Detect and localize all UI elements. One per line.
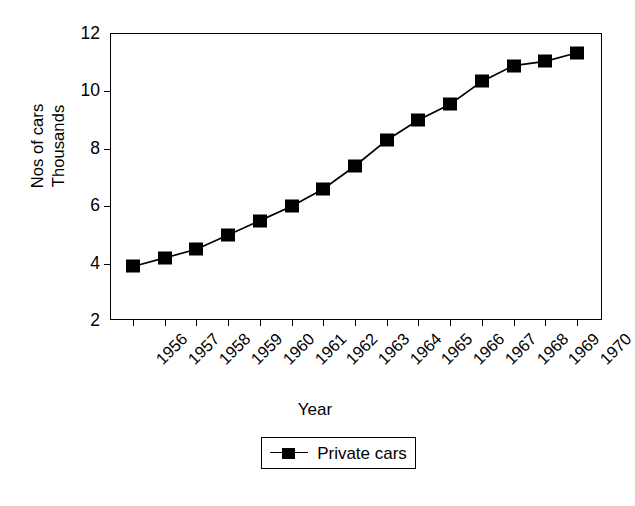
x-axis-tick: [133, 319, 134, 326]
x-axis-tick: [196, 319, 197, 326]
x-axis-tick-label: 1956: [153, 330, 191, 368]
x-axis-tick: [260, 319, 261, 326]
x-axis-tick-label: 1960: [280, 330, 318, 368]
y-axis-tick-label: 4: [60, 254, 100, 272]
x-axis-tick-label: 1964: [406, 330, 444, 368]
legend-entry-label: Private cars: [317, 445, 407, 462]
x-axis-tick-label: 1959: [248, 330, 286, 368]
data-point-marker: [507, 59, 521, 72]
y-axis-title-line-1: Nos of cars: [27, 104, 47, 189]
x-axis-tick-label: 1957: [184, 330, 222, 368]
plot-area: [110, 33, 602, 320]
legend-square-icon: [282, 448, 295, 459]
series-line-private-cars: [111, 34, 603, 321]
x-axis-tick: [577, 319, 578, 326]
x-axis-title: Year: [0, 400, 630, 420]
data-point-marker: [443, 98, 457, 111]
data-point-marker: [126, 260, 140, 273]
x-axis-tick-label: 1963: [375, 330, 413, 368]
y-axis-tick: [104, 264, 111, 265]
x-axis-tick-label: 1961: [311, 330, 349, 368]
legend-marker-icon: [270, 446, 308, 460]
y-axis-tick: [104, 149, 111, 150]
data-point-marker: [380, 134, 394, 147]
data-point-marker: [316, 182, 330, 195]
x-axis-tick-label: 1968: [533, 330, 571, 368]
data-point-marker: [285, 200, 299, 213]
x-axis-tick-label: 1965: [438, 330, 476, 368]
x-axis-tick-label: 1970: [597, 330, 635, 368]
x-axis-tick: [323, 319, 324, 326]
x-axis-tick-label: 1969: [565, 330, 603, 368]
data-point-marker: [221, 228, 235, 241]
x-axis-tick: [228, 319, 229, 326]
y-axis-tick-label: 2: [60, 311, 100, 329]
x-axis-tick: [355, 319, 356, 326]
x-axis-tick-label: 1966: [470, 330, 508, 368]
chart-legend: Private cars: [261, 437, 416, 469]
y-axis-tick-label: 12: [60, 24, 100, 42]
data-point-marker: [570, 46, 584, 59]
x-axis-tick: [165, 319, 166, 326]
y-axis-tick: [104, 206, 111, 207]
y-axis-tick: [104, 91, 111, 92]
data-point-marker: [253, 214, 267, 227]
x-axis-tick: [418, 319, 419, 326]
data-point-marker: [538, 55, 552, 68]
x-axis-tick-label: 1962: [343, 330, 381, 368]
x-axis-tick: [292, 319, 293, 326]
data-point-marker: [348, 160, 362, 173]
x-axis-tick: [387, 319, 388, 326]
data-point-marker: [411, 114, 425, 127]
y-axis-title-line-2: Thousands: [48, 105, 68, 188]
x-axis-tick: [514, 319, 515, 326]
data-point-marker: [158, 251, 172, 264]
x-axis-tick: [482, 319, 483, 326]
x-axis-tick-label: 1967: [502, 330, 540, 368]
x-axis-tick-label: 1958: [216, 330, 254, 368]
x-axis-tick: [545, 319, 546, 326]
x-axis-tick: [450, 319, 451, 326]
data-point-marker: [189, 243, 203, 256]
data-point-marker: [475, 75, 489, 88]
y-axis-title: Nos of cars Thousands: [23, 56, 71, 236]
